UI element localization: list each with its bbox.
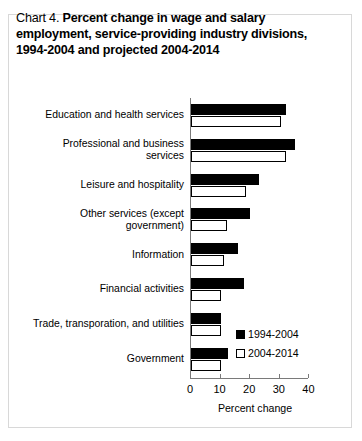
category-label: Government <box>10 353 184 365</box>
x-axis-tick <box>190 374 191 378</box>
bar-2004-2014 <box>191 325 221 336</box>
bar-chart: 010203040Education and health servicesPr… <box>0 0 362 441</box>
x-axis-tick-label: 10 <box>205 383 235 395</box>
x-axis-tick-label: 20 <box>234 383 264 395</box>
category-label: Education and health services <box>10 109 184 121</box>
chart-page: Chart 4. Percent change in wage and sala… <box>0 0 362 441</box>
bar-2004-2014 <box>191 151 286 162</box>
legend-label-2004-2014: 2004-2014 <box>248 345 299 361</box>
x-axis-tick-label: 0 <box>175 383 205 395</box>
x-axis-tick <box>220 374 221 378</box>
x-axis-line <box>190 378 308 379</box>
category-label: Information <box>10 249 184 261</box>
legend-swatch-icon-filled <box>236 330 245 339</box>
bar-1994-2004 <box>191 348 228 359</box>
x-axis-tick <box>249 374 250 378</box>
bar-1994-2004 <box>191 139 295 150</box>
x-axis-tick-label: 30 <box>264 383 294 395</box>
category-label: Financial activities <box>10 283 184 295</box>
bar-1994-2004 <box>191 278 244 289</box>
bar-2004-2014 <box>191 290 221 301</box>
category-label: Professional and business services <box>10 138 184 163</box>
category-label: Trade, transporation, and utilities <box>10 318 184 330</box>
bar-2004-2014 <box>191 255 224 266</box>
bar-2004-2014 <box>191 116 281 127</box>
bar-1994-2004 <box>191 313 221 324</box>
category-label: Other services (except government) <box>10 208 184 233</box>
bar-1994-2004 <box>191 208 250 219</box>
bar-1994-2004 <box>191 174 259 185</box>
legend-item-1994-2004: 1994-2004 <box>236 326 299 342</box>
chart-legend: 1994-2004 2004-2014 <box>236 326 299 364</box>
legend-item-2004-2014: 2004-2014 <box>236 345 299 361</box>
x-axis-tick <box>279 374 280 378</box>
x-axis-tick <box>308 374 309 378</box>
x-axis-title: Percent change <box>190 402 320 414</box>
legend-swatch-icon-open <box>236 349 245 358</box>
category-label: Leisure and hospitality <box>10 179 184 191</box>
bar-2004-2014 <box>191 186 246 197</box>
bar-1994-2004 <box>191 104 286 115</box>
legend-label-1994-2004: 1994-2004 <box>248 326 299 342</box>
bar-1994-2004 <box>191 243 238 254</box>
x-axis-tick-label: 40 <box>293 383 323 395</box>
bar-2004-2014 <box>191 220 227 231</box>
bar-2004-2014 <box>191 360 221 371</box>
